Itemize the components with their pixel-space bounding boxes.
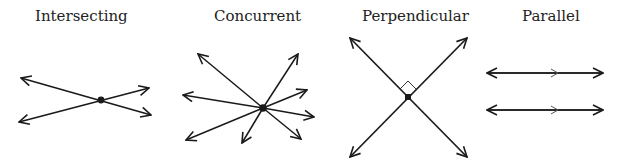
concurrent-ray-1 <box>198 54 263 108</box>
intersecting-line-a <box>21 78 151 115</box>
intersection-point <box>98 97 103 102</box>
concurrency-point <box>260 105 266 111</box>
concurrent-ray-2 <box>263 54 298 108</box>
line-diagrams <box>0 0 619 164</box>
right-angle-mark <box>400 81 416 89</box>
concurrent-ray-8 <box>263 108 301 139</box>
concurrent-ray-7 <box>242 108 263 143</box>
concurrent-ray-5 <box>263 108 314 117</box>
concurrent-ray-3 <box>183 95 263 108</box>
intersecting-diagram <box>19 78 151 122</box>
parallel-diagram <box>487 69 603 114</box>
intersecting-line-b <box>19 88 149 122</box>
perpendicular-point <box>405 94 411 100</box>
concurrent-diagram <box>183 54 314 143</box>
concurrent-ray-6 <box>186 108 263 140</box>
perpendicular-diagram <box>350 38 467 157</box>
